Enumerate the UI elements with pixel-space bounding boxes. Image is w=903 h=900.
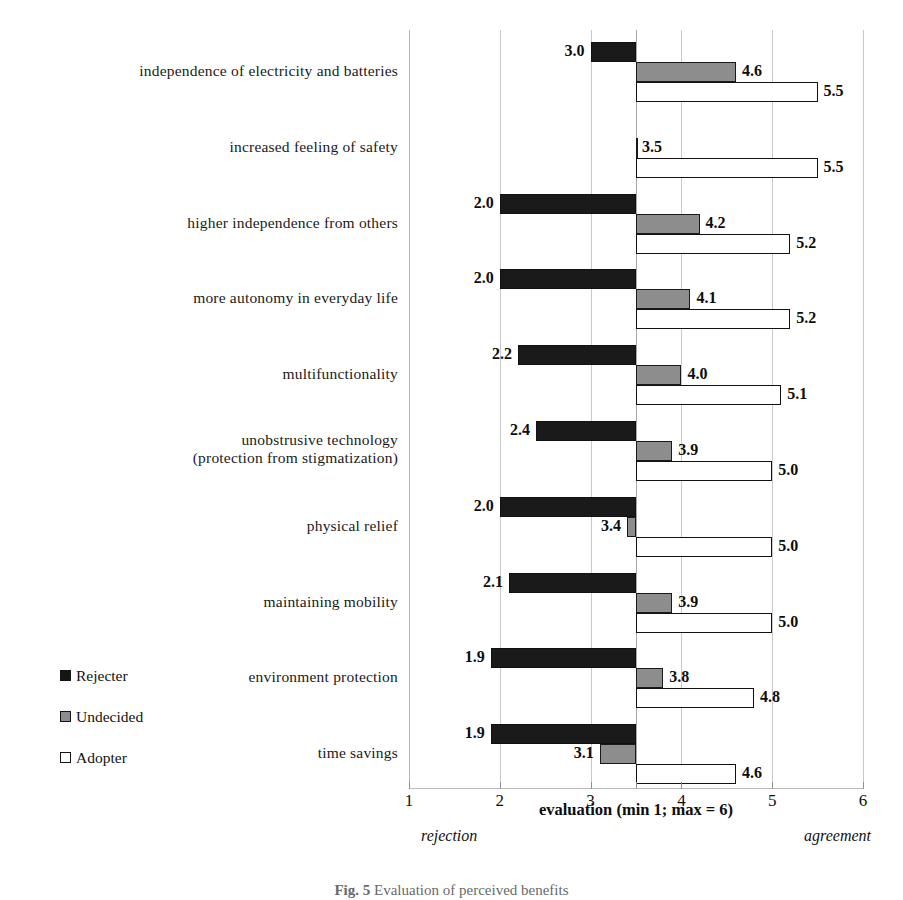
bar-value-label: 3.0 — [543, 41, 585, 61]
category-label: unobstrusive technology (protection from… — [193, 431, 398, 467]
axis-pole-label-rejection: rejection — [421, 827, 477, 845]
bar-value-label: 5.5 — [824, 81, 844, 101]
bar-undecided — [636, 441, 672, 461]
bar-undecided — [636, 668, 663, 688]
bar-rejecter — [500, 269, 636, 289]
bar-value-label: 5.0 — [778, 460, 798, 480]
gridline-1 — [409, 30, 410, 788]
legend-item-label: Rejecter — [76, 667, 128, 685]
bar-undecided — [600, 744, 636, 764]
bar-value-label: 5.0 — [778, 536, 798, 556]
bar-value-label: 4.6 — [742, 61, 762, 81]
bar-value-label: 5.0 — [778, 612, 798, 632]
bar-value-label: 2.0 — [452, 496, 494, 516]
bar-adopter — [636, 613, 772, 633]
bar-undecided — [636, 62, 736, 82]
bar-rejecter — [536, 421, 636, 441]
bar-rejecter — [591, 42, 636, 62]
bar-value-label: 4.2 — [706, 213, 726, 233]
bar-value-label: 4.8 — [760, 687, 780, 707]
legend-item-rejecter[interactable]: Rejecter — [60, 655, 250, 696]
chart-figure: independence of electricity and batterie… — [0, 0, 903, 900]
bar-value-label: 4.0 — [687, 364, 707, 384]
bar-rejecter — [500, 194, 636, 214]
bar-value-label: 2.0 — [452, 268, 494, 288]
gridline-3 — [591, 30, 592, 788]
category-label: independence of electricity and batterie… — [139, 62, 398, 80]
bar-value-label: 3.4 — [579, 516, 621, 536]
category-label: more autonomy in everyday life — [193, 289, 398, 307]
bar-rejecter — [491, 648, 636, 668]
bar-adopter — [636, 309, 790, 329]
legend-item-adopter[interactable]: Adopter — [60, 737, 250, 778]
legend-item-undecided[interactable]: Undecided — [60, 696, 250, 737]
bar-rejecter — [491, 724, 636, 744]
bar-value-label: 5.1 — [787, 384, 807, 404]
bar-adopter — [636, 764, 736, 784]
bar-value-label: 5.2 — [796, 308, 816, 328]
bar-value-label: 3.1 — [552, 743, 594, 763]
gray-square-icon — [60, 711, 71, 722]
x-tick-mark — [409, 782, 410, 789]
category-label: environment protection — [249, 668, 398, 686]
bar-adopter — [636, 385, 781, 405]
bar-value-label: 1.9 — [443, 723, 485, 743]
bar-adopter — [636, 461, 772, 481]
legend: RejecterUndecidedAdopter — [60, 655, 250, 778]
bar-undecided — [627, 517, 636, 537]
legend-item-label: Adopter — [76, 749, 127, 767]
axis-pole-label-agreement: agreement — [804, 827, 871, 845]
x-tick-mark — [500, 782, 501, 789]
category-label: multifunctionality — [282, 365, 398, 383]
figure-caption-text: Evaluation of perceived benefits — [374, 882, 569, 898]
bar-value-label: 3.8 — [669, 667, 689, 687]
bar-value-label: 2.4 — [488, 420, 530, 440]
x-tick-mark — [591, 782, 592, 789]
x-tick-mark-baseline — [636, 782, 637, 789]
category-label: physical relief — [307, 517, 398, 535]
white-square-icon — [60, 752, 71, 763]
x-tick-mark — [772, 782, 773, 789]
bar-adopter — [636, 688, 754, 708]
bar-value-label: 1.9 — [443, 647, 485, 667]
bar-value-label: 2.2 — [470, 344, 512, 364]
category-label: time savings — [318, 744, 398, 762]
x-tick-mark — [863, 782, 864, 789]
bar-undecided — [636, 365, 681, 385]
bar-value-label: 2.1 — [461, 572, 503, 592]
bar-value-label: 4.6 — [742, 763, 762, 783]
bar-rejecter — [500, 497, 636, 517]
bar-undecided — [636, 214, 700, 234]
gridline-2 — [500, 30, 501, 788]
plot-area: 3.04.65.53.55.52.04.25.22.04.15.22.24.05… — [409, 30, 863, 788]
gridline-5 — [772, 30, 773, 788]
figure-caption: Fig. 5 Evaluation of perceived benefits — [0, 882, 903, 899]
bar-rejecter — [509, 573, 636, 593]
bar-value-label: 3.5 — [642, 137, 662, 157]
x-axis-title: evaluation (min 1; max = 6) — [409, 800, 863, 820]
bar-undecided — [636, 138, 638, 158]
black-square-icon — [60, 670, 71, 681]
bar-value-label: 3.9 — [678, 440, 698, 460]
bar-value-label: 3.9 — [678, 592, 698, 612]
bar-adopter — [636, 537, 772, 557]
bar-undecided — [636, 289, 690, 309]
gridline-6 — [863, 30, 864, 788]
bar-value-label: 2.0 — [452, 193, 494, 213]
bar-adopter — [636, 158, 818, 178]
bar-adopter — [636, 82, 818, 102]
bar-adopter — [636, 234, 790, 254]
bar-value-label: 4.1 — [696, 288, 716, 308]
category-label: higher independence from others — [187, 214, 398, 232]
legend-item-label: Undecided — [76, 708, 143, 726]
x-tick-mark — [681, 782, 682, 789]
category-label: maintaining mobility — [264, 593, 398, 611]
bar-rejecter — [518, 345, 636, 365]
bar-value-label: 5.2 — [796, 233, 816, 253]
category-label: increased feeling of safety — [230, 138, 399, 156]
figure-number: Fig. 5 — [334, 882, 370, 898]
bar-undecided — [636, 593, 672, 613]
bar-value-label: 5.5 — [824, 157, 844, 177]
